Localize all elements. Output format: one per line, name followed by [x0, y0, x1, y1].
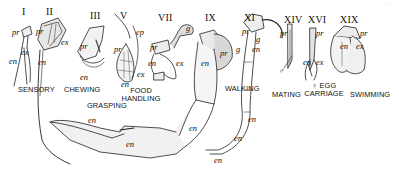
label-IX-en-4: en: [126, 139, 134, 149]
numeral-VII: VII: [158, 12, 172, 23]
label-XI-en-1: en: [252, 44, 260, 54]
label-VII-g: g: [186, 23, 190, 33]
numeral-V: V: [120, 10, 127, 21]
label-XVI-ex: ex: [316, 57, 324, 67]
label-XI-en-4: en: [214, 155, 222, 165]
numeral-XIV: XIV: [284, 14, 302, 25]
function-walking: WALKING: [225, 85, 260, 93]
label-VII-pr: pr: [150, 42, 158, 52]
label-VII-en: en: [148, 58, 156, 68]
label-XVI-en: en: [303, 57, 311, 67]
label-V-pr: pr: [114, 44, 122, 54]
label-VII-ex: ex: [176, 58, 184, 68]
label-IX-pr: pr: [220, 48, 228, 58]
function-food-handling-line-2: HANDLING: [120, 95, 162, 103]
label-V-ex: ex: [137, 69, 145, 79]
numeral-XVI: XVI: [308, 14, 326, 25]
function-grasping: GRASPING: [87, 102, 127, 110]
male-symbol: ♂: [279, 67, 284, 75]
label-III-pr: pr: [80, 41, 88, 51]
label-II-pr: pr: [36, 26, 44, 36]
numeral-II: II: [46, 6, 53, 17]
label-XIX-en: en: [340, 41, 348, 51]
label-I-ex: ex: [21, 47, 29, 57]
label-IX-g: g: [236, 44, 240, 54]
function-egg-carriage-line-2: CARRIAGE: [304, 90, 344, 98]
label-IX-en-1: en: [201, 58, 209, 68]
label-II-en: en: [38, 57, 46, 67]
numeral-I: I: [22, 6, 26, 17]
label-IX-en-2: en: [189, 123, 197, 133]
numeral-XI: XI: [244, 12, 255, 23]
function-mating: MATING: [272, 91, 301, 99]
label-I-en: en: [9, 56, 17, 66]
function-egg-carriage: ♀ EGG CARRIAGE: [304, 82, 344, 98]
label-XI-g: g: [256, 34, 260, 44]
function-swimming: SWIMMING: [350, 91, 390, 99]
label-V-ep: ep: [136, 27, 144, 37]
label-XVI-pr: pr: [316, 28, 324, 38]
function-chewing: CHEWING: [64, 86, 100, 94]
appendage-diagram: · · · I II III V VII IX XI XIV XVI XIX p…: [0, 0, 399, 170]
label-I-pr: pr: [12, 27, 20, 37]
function-sensory: SENSORY: [18, 86, 55, 94]
label-III-en: en: [80, 72, 88, 82]
function-food-handling: FOOD HANDLING: [120, 87, 162, 103]
corner-mark: · · ·: [382, 1, 391, 7]
label-XIX-ex: ex: [356, 41, 364, 51]
label-XI-pr: pr: [242, 26, 250, 36]
label-XIX-pr: pr: [360, 28, 368, 38]
numeral-IX: IX: [205, 12, 216, 23]
label-XI-en-2: en: [248, 114, 256, 124]
label-XI-en-3: en: [234, 133, 242, 143]
label-IX-en-3: en: [88, 115, 96, 125]
numeral-XIX: XIX: [340, 14, 358, 25]
numeral-III: III: [90, 10, 101, 21]
label-XIV-pr: pr: [280, 28, 288, 38]
label-II-ex: ex: [61, 37, 69, 47]
